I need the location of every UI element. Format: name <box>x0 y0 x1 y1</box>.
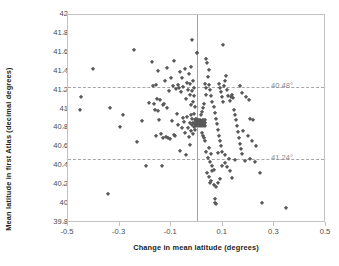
data-point <box>225 88 230 93</box>
data-point <box>217 139 222 144</box>
data-point <box>212 111 217 116</box>
data-point <box>220 95 225 100</box>
data-point <box>216 133 221 138</box>
data-point <box>223 153 228 158</box>
data-point <box>232 112 237 117</box>
x-axis-tick-label: -0.5 <box>49 228 85 236</box>
data-point <box>209 94 214 99</box>
data-point <box>206 146 211 151</box>
data-point <box>233 158 238 163</box>
data-point <box>258 171 263 176</box>
data-point <box>173 134 178 139</box>
data-point <box>79 95 84 100</box>
data-point <box>183 130 188 135</box>
data-point <box>238 142 243 147</box>
data-point <box>163 79 168 84</box>
data-point <box>182 67 187 72</box>
data-point <box>213 116 218 121</box>
x-axis-tick-mark <box>222 222 223 226</box>
y-axis-title: Mean latitude in first Atlas (decimal de… <box>0 16 16 266</box>
data-point <box>209 152 214 157</box>
data-point <box>235 129 240 134</box>
data-point <box>208 88 213 93</box>
x-axis-tick-label: 0.5 <box>307 228 339 236</box>
data-point <box>178 148 183 153</box>
data-point <box>154 134 159 139</box>
data-point <box>165 105 170 110</box>
data-point <box>203 93 208 98</box>
data-point <box>179 126 184 131</box>
plot-area <box>67 14 325 222</box>
data-point <box>190 78 195 83</box>
x-axis-tick-label: -0.3 <box>101 228 137 236</box>
data-point <box>132 47 137 52</box>
data-point <box>218 144 223 149</box>
data-point <box>164 66 169 71</box>
data-point <box>219 164 224 169</box>
data-point <box>183 96 188 101</box>
data-point <box>189 64 194 69</box>
data-point <box>206 75 211 80</box>
data-point <box>190 37 195 42</box>
data-point <box>242 159 247 164</box>
data-point <box>210 99 215 104</box>
data-point <box>249 139 254 144</box>
data-point <box>108 106 113 111</box>
x-axis-tick-mark <box>119 222 120 226</box>
data-point <box>187 135 192 140</box>
data-point <box>212 197 217 202</box>
data-point <box>221 43 226 48</box>
data-point <box>120 112 125 117</box>
data-point <box>284 206 289 211</box>
data-point <box>156 109 161 114</box>
data-point <box>186 72 191 77</box>
data-point <box>118 125 123 130</box>
x-axis-tick-mark <box>273 222 274 226</box>
data-point <box>202 139 207 144</box>
data-point <box>221 99 226 104</box>
data-point <box>215 128 220 133</box>
lower-dashed-line-label: 41.24° <box>271 154 293 162</box>
data-point <box>151 102 156 107</box>
x-axis-title: Change in mean latitude (degrees) <box>67 243 325 252</box>
data-point <box>149 60 154 65</box>
data-point <box>223 79 228 84</box>
data-point <box>234 124 239 129</box>
x-axis-tick-mark <box>170 222 171 226</box>
data-point <box>229 176 234 181</box>
data-point <box>192 94 197 99</box>
data-point <box>172 59 177 64</box>
upper-dashed-line-label: 40.48° <box>271 82 293 90</box>
data-point <box>170 119 175 124</box>
data-point <box>175 112 180 117</box>
data-point <box>158 98 163 103</box>
data-point <box>184 153 189 158</box>
x-axis-tick-label: 0.1 <box>204 228 240 236</box>
data-point <box>179 90 184 95</box>
data-point <box>168 137 173 142</box>
data-point <box>253 160 258 165</box>
data-point <box>259 200 264 205</box>
data-point <box>182 120 187 125</box>
data-point <box>207 68 212 73</box>
data-point <box>240 151 245 156</box>
data-point <box>159 164 164 169</box>
data-point <box>224 74 229 79</box>
scatter-chart: Mean latitude in first Atlas (decimal de… <box>0 0 339 266</box>
data-point <box>169 76 174 81</box>
data-point <box>106 192 111 197</box>
data-point <box>180 76 185 81</box>
data-point <box>91 67 96 72</box>
data-point <box>147 101 152 106</box>
data-point <box>191 99 196 104</box>
data-point <box>248 157 253 162</box>
data-point <box>135 140 140 145</box>
data-point <box>231 107 236 112</box>
data-point <box>239 147 244 152</box>
data-point <box>237 136 242 141</box>
data-point <box>240 91 245 96</box>
data-point <box>167 88 172 93</box>
x-axis-tick-label: 0.3 <box>255 228 291 236</box>
data-point <box>245 134 250 139</box>
data-point <box>233 118 238 123</box>
